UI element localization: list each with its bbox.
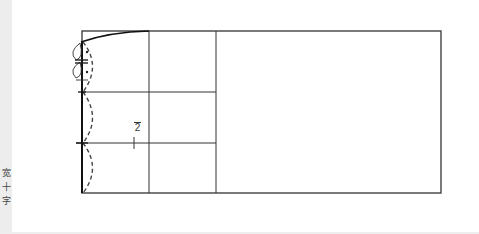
- dot-mark: [86, 51, 88, 53]
- fraction-denominator: 2: [134, 123, 141, 133]
- dashed-curve-3: [83, 143, 93, 193]
- dot-mark: [86, 71, 88, 73]
- top-curve: [81, 31, 149, 42]
- loop-detail-1: [73, 43, 82, 60]
- dashed-curve-2: [83, 92, 93, 143]
- pattern-diagram: [0, 0, 479, 234]
- outer-frame: [82, 31, 441, 193]
- dashed-curve-1: [83, 42, 93, 92]
- bottom-border: [0, 232, 479, 234]
- loop-detail-2: [73, 62, 82, 78]
- fraction-label: 2: [134, 119, 141, 133]
